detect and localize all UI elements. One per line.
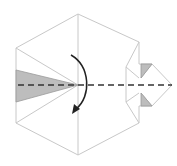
diagram-canvas — [0, 0, 177, 166]
origami-diagram — [0, 0, 177, 166]
right-inner-lower-diag — [126, 93, 139, 102]
shaded-triangle-lower-right — [141, 93, 152, 106]
shaded-triangle-upper-right — [141, 64, 152, 78]
shaded-triangle-left — [16, 70, 78, 102]
right-inner-upper-diag — [126, 67, 139, 78]
